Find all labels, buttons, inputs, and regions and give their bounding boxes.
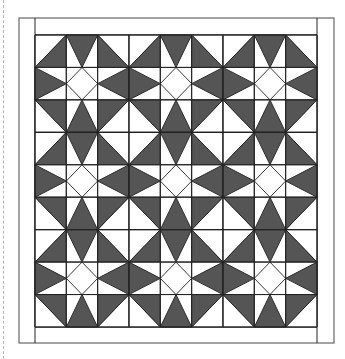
quilt-diagram	[0, 0, 345, 359]
quilt-blocks	[35, 35, 317, 327]
